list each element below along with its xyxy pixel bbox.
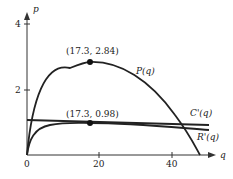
profit-curve-label: P(q): [135, 66, 155, 76]
y-tick-label-4: 4: [15, 19, 21, 29]
intersection-point: [87, 120, 93, 126]
x-tick-label-0: 0: [24, 159, 30, 169]
x-axis-label: q: [220, 150, 226, 160]
max-profit-point: [87, 59, 93, 65]
x-tick-label-20: 20: [93, 159, 105, 169]
profit-chart: 4 2 0 20 40 p q (17.3, 2.84) (17.3, 0.98…: [0, 0, 233, 179]
y-axis-arrow-icon: [24, 12, 30, 20]
intersect-point-label: (17.3, 0.98): [66, 109, 119, 119]
y-axis-label: p: [33, 4, 39, 14]
x-tick-label-40: 40: [166, 159, 178, 169]
marginal-revenue-curve: [27, 123, 209, 155]
y-tick-label-2: 2: [15, 85, 21, 95]
max-point-label: (17.3, 2.84): [66, 46, 119, 56]
marginal-revenue-label: R'(q): [196, 132, 220, 142]
x-axis-arrow-icon: [208, 152, 216, 158]
marginal-cost-label: C'(q): [190, 108, 213, 118]
